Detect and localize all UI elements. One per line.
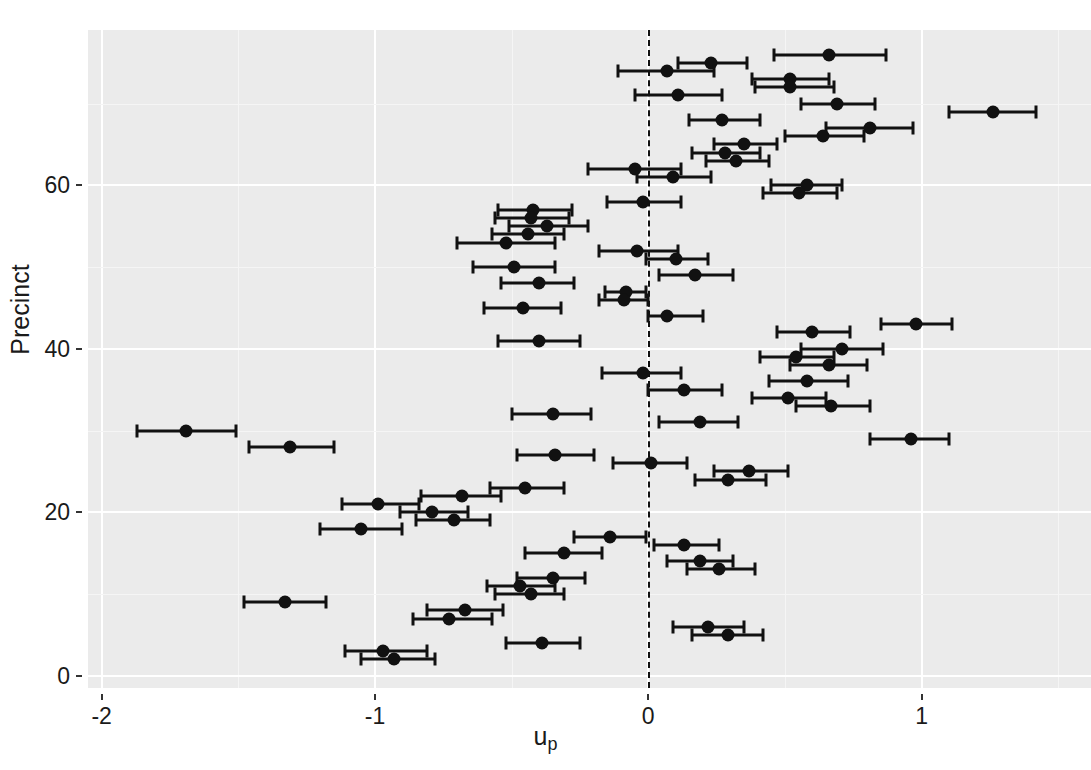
y-axis-tick-mark xyxy=(76,184,82,186)
data-point xyxy=(806,326,819,339)
data-point xyxy=(666,171,679,184)
error-bar-cap xyxy=(562,481,565,494)
error-bar-cap xyxy=(510,408,513,421)
y-axis-tick-label: 60 xyxy=(44,172,70,199)
error-bar-cap xyxy=(658,416,661,429)
error-bar-cap xyxy=(710,171,713,184)
error-bar-cap xyxy=(647,293,650,306)
error-bar-cap xyxy=(425,645,428,658)
error-bar-cap xyxy=(598,293,601,306)
data-point xyxy=(677,538,690,551)
error-bar-cap xyxy=(759,146,762,159)
data-point xyxy=(836,342,849,355)
error-bar-cap xyxy=(633,89,636,102)
error-bar-cap xyxy=(762,628,765,641)
error-bar-cap xyxy=(600,367,603,380)
data-point xyxy=(713,563,726,576)
error-bar-cap xyxy=(554,261,557,274)
error-bar-cap xyxy=(767,375,770,388)
x-axis-tick-mark xyxy=(101,694,103,700)
error-bar-cap xyxy=(611,457,614,470)
data-point xyxy=(532,334,545,347)
error-bar-cap xyxy=(516,449,519,462)
error-bar-cap xyxy=(764,473,767,486)
error-bar-cap xyxy=(248,440,251,453)
data-point xyxy=(822,359,835,372)
y-axis-tick-label: 0 xyxy=(57,662,70,689)
error-bar-cap xyxy=(721,89,724,102)
gridline-major-vertical xyxy=(921,30,923,688)
error-bar-cap xyxy=(568,212,571,225)
x-axis-tick-mark xyxy=(647,694,649,700)
error-bar-cap xyxy=(751,391,754,404)
data-point xyxy=(603,530,616,543)
error-bar-cap xyxy=(562,588,565,601)
error-bar-cap xyxy=(947,105,950,118)
error-bar-cap xyxy=(242,596,245,609)
error-bar-cap xyxy=(343,645,346,658)
data-point xyxy=(636,195,649,208)
error-bar-cap xyxy=(677,56,680,69)
error-bar-cap xyxy=(721,383,724,396)
data-point xyxy=(541,220,554,233)
error-bar-cap xyxy=(578,334,581,347)
data-point xyxy=(508,261,521,274)
error-bar-cap xyxy=(912,122,915,135)
data-point xyxy=(522,228,535,241)
data-point xyxy=(822,48,835,61)
error-bar-cap xyxy=(745,56,748,69)
gridline-major-vertical xyxy=(101,30,103,688)
data-point xyxy=(830,97,843,110)
error-bar-cap xyxy=(360,653,363,666)
data-point xyxy=(904,432,917,445)
error-bar-cap xyxy=(835,187,838,200)
data-point xyxy=(500,236,513,249)
error-bar-cap xyxy=(868,400,871,413)
data-point xyxy=(459,604,472,617)
error-bar-cap xyxy=(712,138,715,151)
y-axis-tick-label: 20 xyxy=(44,499,70,526)
data-point xyxy=(677,383,690,396)
data-point xyxy=(557,547,570,560)
data-point xyxy=(716,113,729,126)
error-bar-cap xyxy=(685,457,688,470)
error-bar-cap xyxy=(598,244,601,257)
data-point xyxy=(546,571,559,584)
data-point xyxy=(532,277,545,290)
data-point xyxy=(284,440,297,453)
data-point xyxy=(688,269,701,282)
data-point xyxy=(784,81,797,94)
error-bar-cap xyxy=(472,261,475,274)
error-bar-cap xyxy=(570,203,573,216)
y-axis-tick-mark xyxy=(76,348,82,350)
error-bar-cap xyxy=(762,187,765,200)
error-bar-cap xyxy=(693,473,696,486)
gridline-major-horizontal xyxy=(88,348,1091,350)
error-bar-cap xyxy=(491,612,494,625)
error-bar-cap xyxy=(950,318,953,331)
error-bar-cap xyxy=(833,81,836,94)
error-bar-cap xyxy=(486,579,489,592)
error-bar-cap xyxy=(759,113,762,126)
error-bar-cap xyxy=(680,162,683,175)
data-point xyxy=(456,489,469,502)
x-axis-label-subscript: p xyxy=(547,734,557,754)
error-bar-cap xyxy=(414,514,417,527)
gridline-minor-horizontal xyxy=(88,267,1091,268)
error-bar-cap xyxy=(742,620,745,633)
data-point xyxy=(817,130,830,143)
error-bar-cap xyxy=(491,228,494,241)
error-bar-cap xyxy=(455,236,458,249)
error-bar-cap xyxy=(882,342,885,355)
y-axis-tick-mark xyxy=(76,511,82,513)
error-bar-cap xyxy=(573,530,576,543)
data-point xyxy=(661,64,674,77)
error-bar-cap xyxy=(644,530,647,543)
plot-panel xyxy=(88,30,1091,688)
error-bar-cap xyxy=(488,514,491,527)
data-point xyxy=(519,481,532,494)
gridline-major-horizontal xyxy=(88,675,1091,677)
error-bar-cap xyxy=(775,138,778,151)
data-point xyxy=(737,138,750,151)
y-axis-tick-mark xyxy=(76,675,82,677)
